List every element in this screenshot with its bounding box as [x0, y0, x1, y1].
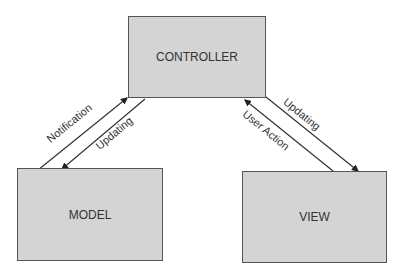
view-label: VIEW	[299, 210, 330, 224]
model-box: MODEL	[17, 168, 163, 261]
model-label: MODEL	[69, 208, 112, 222]
controller-label: CONTROLLER	[156, 50, 238, 64]
controller-box: CONTROLLER	[128, 16, 266, 98]
view-box: VIEW	[242, 171, 387, 263]
